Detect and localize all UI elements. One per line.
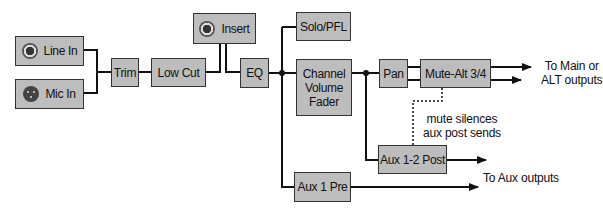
mute-note-line2: aux post sends: [423, 126, 501, 140]
trs-jack-icon: [22, 43, 38, 59]
pan-block: Pan: [379, 59, 408, 88]
aux-pre-label: Aux 1 Pre: [298, 180, 348, 194]
trs-jack-icon: [199, 21, 215, 37]
mic-in-label: Mic In: [45, 87, 75, 101]
solo-pfl-label: Solo/PFL: [300, 20, 347, 34]
aux-output-label: To Aux outputs: [483, 171, 559, 185]
line-in-block: Line In: [15, 36, 84, 66]
mic-in-block: Mic In: [15, 79, 84, 109]
eq-label: EQ: [246, 66, 263, 80]
trim-label: Trim: [114, 66, 136, 80]
mute-alt-label: Mute-Alt 3/4: [425, 67, 486, 81]
main-output-label-line2: ALT outputs: [541, 73, 602, 87]
trim-block: Trim: [111, 58, 139, 87]
aux-post-label: Aux 1-2 Post: [380, 153, 445, 167]
fader-label-line3: Fader: [309, 95, 339, 109]
low-cut-block: Low Cut: [151, 58, 206, 87]
pan-label: Pan: [383, 67, 403, 81]
main-output-label: To Main or ALT outputs: [541, 59, 602, 87]
low-cut-label: Low Cut: [158, 66, 200, 80]
mute-note-line1: mute silences: [423, 112, 501, 126]
solo-pfl-block: Solo/PFL: [296, 12, 351, 41]
channel-volume-fader-block: Channel Volume Fader: [296, 59, 352, 116]
insert-block: Insert: [193, 13, 256, 44]
mute-note: mute silences aux post sends: [423, 112, 501, 140]
fader-label-line2: Volume: [305, 81, 343, 95]
line-in-label: Line In: [44, 44, 78, 58]
main-output-label-line1: To Main or: [541, 59, 602, 73]
mute-alt-block: Mute-Alt 3/4: [420, 59, 491, 88]
fader-label-line1: Channel: [303, 67, 346, 81]
xlr-connector-icon: [23, 86, 39, 102]
insert-label: Insert: [221, 22, 249, 36]
aux-post-block: Aux 1-2 Post: [378, 145, 447, 174]
eq-block: EQ: [240, 58, 269, 88]
aux-pre-block: Aux 1 Pre: [294, 172, 351, 202]
